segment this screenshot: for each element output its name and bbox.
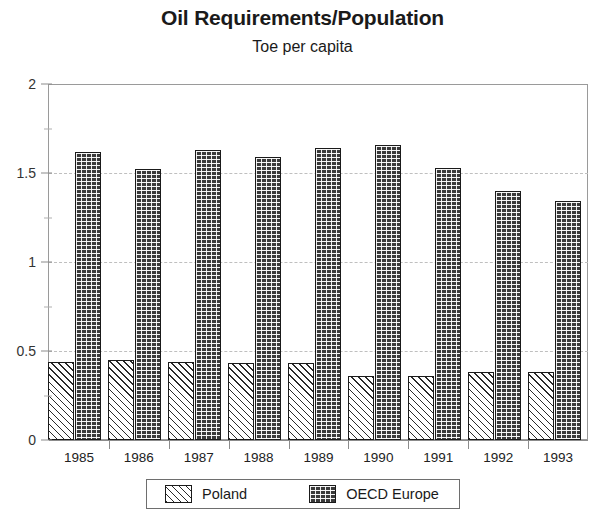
x-tick-label-1991: 1991 bbox=[423, 450, 453, 465]
x-tick-label-1993: 1993 bbox=[543, 450, 573, 465]
bar-oecd-europe-1992 bbox=[495, 191, 521, 440]
x-tick-label-1992: 1992 bbox=[483, 450, 513, 465]
legend-label: OECD Europe bbox=[346, 486, 439, 502]
y-tick-major-1 bbox=[41, 262, 52, 263]
x-tick-5 bbox=[408, 440, 409, 449]
x-tick-label-1987: 1987 bbox=[184, 450, 214, 465]
y-tick-minor-0.25 bbox=[44, 395, 52, 396]
chart-subtitle: Toe per capita bbox=[0, 38, 605, 56]
bar-oecd-europe-1986 bbox=[135, 169, 161, 440]
bar-oecd-europe-1991 bbox=[435, 168, 461, 440]
legend-swatch-poland bbox=[165, 485, 192, 503]
y-tick-label-2: 2 bbox=[28, 77, 36, 91]
chart-legend: PolandOECD Europe bbox=[146, 479, 460, 509]
x-axis-labels: 198519861987198819891990199119921993 bbox=[49, 450, 588, 470]
x-tick-label-1989: 1989 bbox=[303, 450, 333, 465]
bar-poland-1986 bbox=[108, 360, 134, 440]
legend-entry-poland: Poland bbox=[165, 480, 247, 508]
bar-poland-1991 bbox=[408, 376, 434, 440]
x-tick-label-1988: 1988 bbox=[244, 450, 274, 465]
chart-container: Oil Requirements/Population Toe per capi… bbox=[0, 0, 605, 526]
y-tick-label-0: 0 bbox=[28, 433, 36, 447]
bar-poland-1993 bbox=[528, 372, 554, 440]
x-tick-6 bbox=[468, 440, 469, 449]
y-tick-major-2 bbox=[41, 84, 52, 85]
x-tick-0 bbox=[109, 440, 110, 449]
plot-area bbox=[49, 84, 588, 440]
bar-oecd-europe-1993 bbox=[555, 201, 581, 440]
x-tick-label-1985: 1985 bbox=[64, 450, 94, 465]
y-tick-major-1.5 bbox=[41, 173, 52, 174]
bar-oecd-europe-1985 bbox=[75, 152, 101, 440]
bar-oecd-europe-1987 bbox=[195, 150, 221, 440]
y-tick-label-1.5: 1.5 bbox=[17, 166, 36, 180]
bar-poland-1990 bbox=[348, 376, 374, 440]
x-tick-label-1990: 1990 bbox=[363, 450, 393, 465]
x-tick-1 bbox=[169, 440, 170, 449]
chart-title: Oil Requirements/Population bbox=[0, 6, 605, 30]
x-axis-line bbox=[49, 440, 588, 441]
y-tick-minor-0.75 bbox=[44, 306, 52, 307]
legend-label: Poland bbox=[202, 486, 247, 502]
bar-poland-1985 bbox=[48, 362, 74, 440]
bar-oecd-europe-1990 bbox=[375, 145, 401, 440]
x-tick-label-1986: 1986 bbox=[124, 450, 154, 465]
legend-swatch-oecd-europe bbox=[309, 485, 336, 503]
bar-poland-1987 bbox=[168, 362, 194, 440]
x-tick-4 bbox=[348, 440, 349, 449]
x-tick-3 bbox=[289, 440, 290, 449]
x-tick-7 bbox=[528, 440, 529, 449]
y-tick-label-1: 1 bbox=[28, 255, 36, 269]
y-tick-major-0.5 bbox=[41, 351, 52, 352]
y-tick-minor-1.25 bbox=[44, 217, 52, 218]
bar-oecd-europe-1988 bbox=[255, 157, 281, 440]
bar-poland-1989 bbox=[288, 363, 314, 440]
x-tick-2 bbox=[229, 440, 230, 449]
legend-entry-oecd-europe: OECD Europe bbox=[309, 480, 439, 508]
bar-oecd-europe-1989 bbox=[315, 148, 341, 440]
bar-poland-1992 bbox=[468, 372, 494, 440]
bar-poland-1988 bbox=[228, 363, 254, 440]
y-axis: 00.511.52 bbox=[0, 84, 44, 440]
y-tick-label-0.5: 0.5 bbox=[17, 344, 36, 358]
y-tick-minor-1.75 bbox=[44, 128, 52, 129]
